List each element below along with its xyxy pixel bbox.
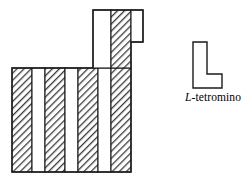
l-tetromino-label: L-tetromino [185, 92, 241, 104]
l-tetromino-shape [193, 42, 222, 88]
stripe-4 [65, 68, 78, 172]
figure-root: L-tetromino [0, 0, 244, 182]
stripe-7 [111, 68, 131, 172]
stripe-3 [45, 68, 65, 172]
stripe-1 [12, 68, 32, 172]
stripe-notch-white [131, 10, 143, 42]
stripe-6 [98, 68, 111, 172]
stripe-2 [32, 68, 45, 172]
stripe-tall-hatched [111, 10, 131, 68]
stripe-tall-white [93, 10, 111, 68]
striped-region [12, 10, 143, 172]
l-tetromino-outline [193, 42, 222, 88]
l-tetromino-label-suffix: -tetromino [192, 91, 242, 103]
stripe-5 [78, 68, 98, 172]
